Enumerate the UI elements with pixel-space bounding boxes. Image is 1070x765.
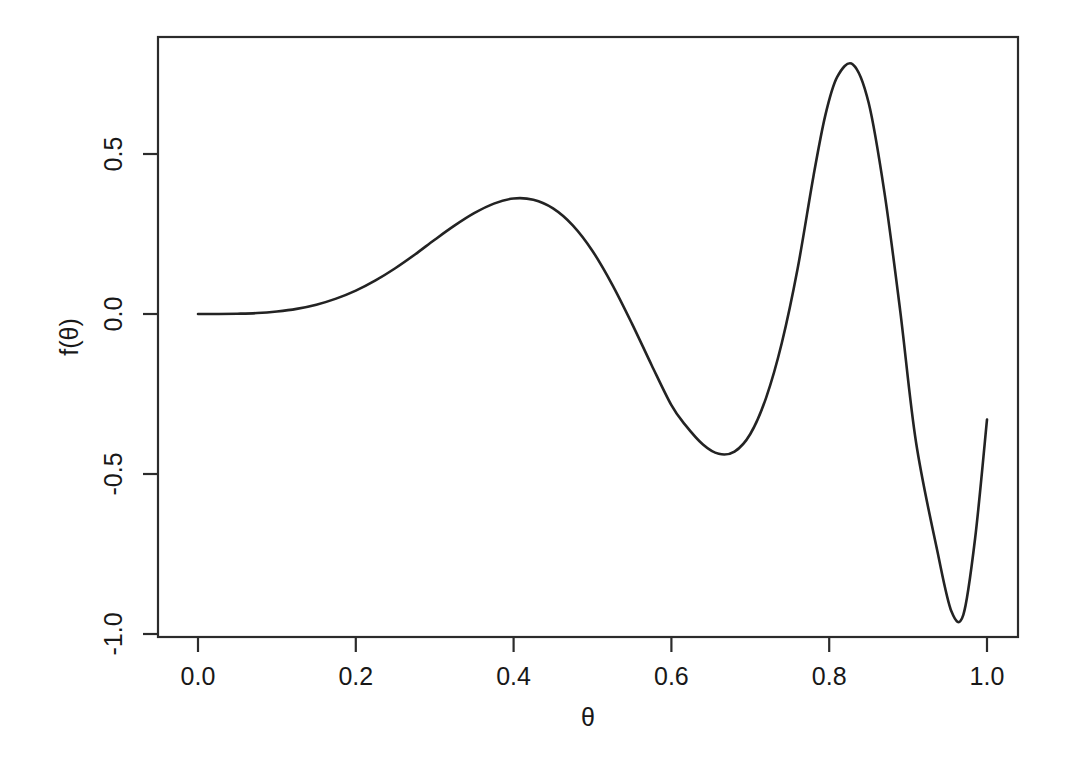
x-axis-tick-label: 0.4 (496, 662, 531, 690)
data-series-curve (198, 63, 987, 622)
y-axis-tick-label: 0.5 (99, 137, 127, 172)
y-axis-tick-label: 0.0 (99, 297, 127, 332)
x-axis-tick-label: 0.6 (654, 662, 689, 690)
x-axis-tick-label: 1.0 (970, 662, 1005, 690)
x-axis-ticks (198, 637, 987, 652)
y-axis-title: f(θ) (55, 318, 83, 356)
y-axis-tick-labels: 0.50.0-0.5-1.0 (99, 137, 127, 656)
y-axis-tick-label: -1.0 (99, 612, 127, 655)
y-axis-ticks (143, 154, 158, 634)
y-axis-tick-label: -0.5 (99, 452, 127, 495)
x-axis-title: θ (581, 703, 595, 731)
x-axis-tick-label: 0.2 (338, 662, 373, 690)
x-axis-tick-label: 0.8 (812, 662, 847, 690)
figure-canvas: 0.00.20.40.60.81.0 0.50.0-0.5-1.0 θ f(θ) (0, 0, 1070, 765)
x-axis-tick-labels: 0.00.20.40.60.81.0 (181, 662, 1005, 690)
line-chart: 0.00.20.40.60.81.0 0.50.0-0.5-1.0 θ f(θ) (0, 0, 1070, 765)
plot-panel-border (158, 37, 1018, 637)
x-axis-tick-label: 0.0 (181, 662, 216, 690)
